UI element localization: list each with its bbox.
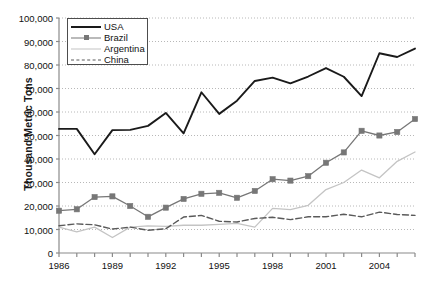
legend-label-argentina: Argentina xyxy=(104,43,145,54)
series-marker-brazil xyxy=(128,203,133,208)
series-marker-brazil xyxy=(377,133,382,138)
line-chart: Thousand Metric Tons 100,00090,00080,000… xyxy=(0,0,426,287)
legend-swatch-usa xyxy=(71,21,101,32)
legend-swatch-argentina xyxy=(71,43,101,54)
series-marker-brazil xyxy=(270,177,275,182)
series-marker-brazil xyxy=(306,174,311,179)
series-marker-brazil xyxy=(110,194,115,199)
series-marker-brazil xyxy=(412,116,417,121)
series-marker-brazil xyxy=(359,128,364,133)
legend-label-usa: USA xyxy=(104,21,124,32)
series-marker-brazil xyxy=(217,190,222,195)
legend-item-china: China xyxy=(68,54,147,65)
series-marker-brazil xyxy=(56,208,61,213)
series-line-china xyxy=(59,212,415,230)
legend-item-brazil: Brazil xyxy=(68,32,147,43)
series-marker-brazil xyxy=(199,191,204,196)
legend-label-china: China xyxy=(104,54,129,65)
series-marker-brazil xyxy=(341,150,346,155)
series-marker-brazil xyxy=(395,129,400,134)
series-marker-brazil xyxy=(74,207,79,212)
series-marker-brazil xyxy=(288,178,293,183)
series-marker-brazil xyxy=(145,214,150,219)
series-marker-brazil xyxy=(323,160,328,165)
series-line-brazil xyxy=(59,119,415,217)
legend-label-brazil: Brazil xyxy=(104,32,128,43)
plot-area xyxy=(0,0,426,287)
series-marker-brazil xyxy=(181,196,186,201)
series-marker-brazil xyxy=(92,194,97,199)
legend-swatch-china xyxy=(71,54,101,65)
series-marker-brazil xyxy=(234,195,239,200)
legend-marker-square xyxy=(84,35,89,40)
legend-item-argentina: Argentina xyxy=(68,43,147,54)
legend-swatch-brazil xyxy=(71,32,101,43)
legend-item-usa: USA xyxy=(68,21,147,32)
chart-legend: USA Brazil Argentina China xyxy=(67,18,148,65)
series-marker-brazil xyxy=(163,205,168,210)
series-marker-brazil xyxy=(252,188,257,193)
